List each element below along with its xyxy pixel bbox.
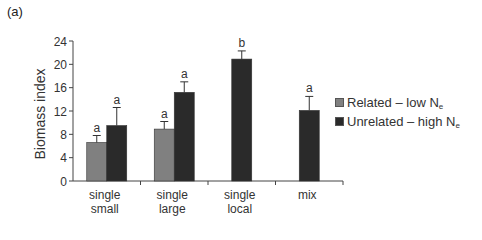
x-category-label: single [157, 188, 189, 202]
y-axis: 04812162024 [54, 35, 73, 189]
legend-label-related: Related – low Ne [347, 95, 443, 111]
legend: Related – low Ne Unrelated – high Ne [335, 93, 460, 131]
legend-label-unrelated-text: Unrelated – high N [347, 114, 455, 129]
bar [154, 129, 174, 181]
legend-swatch-related [335, 98, 344, 107]
bar [299, 110, 319, 181]
y-tick-label: 12 [54, 105, 68, 119]
legend-label-related-text: Related – low N [347, 95, 439, 110]
y-axis-label: Biomass index [32, 68, 48, 159]
bar [107, 126, 127, 181]
bar [87, 143, 107, 182]
bars: aaaaba [87, 36, 320, 181]
significance-letter: a [306, 81, 313, 95]
x-category-label: large [159, 202, 186, 216]
significance-letter: a [161, 107, 168, 121]
y-tick-label: 4 [60, 151, 67, 165]
significance-letter: a [113, 93, 120, 107]
legend-label-unrelated-sub: e [455, 121, 459, 130]
x-category-label: single [89, 188, 121, 202]
bar [232, 59, 252, 181]
x-axis: singlesmallsinglelargesinglelocalmix [73, 181, 343, 216]
legend-item-related: Related – low Ne [335, 93, 460, 112]
legend-label-unrelated: Unrelated – high Ne [347, 114, 460, 130]
y-tick-label: 0 [60, 175, 67, 189]
bar [174, 92, 194, 181]
legend-swatch-unrelated [335, 117, 344, 126]
y-tick-label: 20 [54, 58, 68, 72]
x-category-label: local [227, 202, 252, 216]
legend-item-unrelated: Unrelated – high Ne [335, 112, 460, 131]
y-tick-label: 24 [54, 35, 68, 49]
x-category-label: mix [298, 188, 317, 202]
significance-letter: b [238, 36, 245, 50]
x-category-label: small [91, 202, 119, 216]
y-tick-label: 16 [54, 81, 68, 95]
significance-letter: a [93, 121, 100, 135]
legend-label-related-sub: e [439, 102, 443, 111]
significance-letter: a [181, 67, 188, 81]
x-category-label: single [224, 188, 256, 202]
y-tick-label: 8 [60, 128, 67, 142]
